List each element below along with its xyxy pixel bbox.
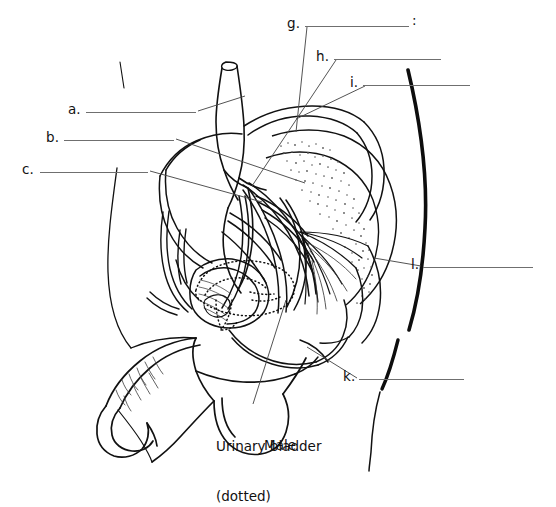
answer-blank-g[interactable]	[305, 26, 409, 27]
label-letter-b: b.	[46, 131, 59, 145]
answer-blank-c[interactable]	[40, 172, 148, 173]
answer-blank-a[interactable]	[86, 112, 196, 113]
label-suffix-g: :	[412, 14, 417, 28]
label-letter-h: h.	[316, 50, 329, 64]
urinary-bladder-caption: Urinary bladder (dotted)	[216, 405, 321, 507]
label-letter-g: g.	[287, 17, 300, 31]
label-letter-a: a.	[68, 103, 81, 117]
figure-title-male: Male	[264, 437, 296, 453]
answer-blank-b[interactable]	[64, 140, 174, 141]
label-letter-l: l.	[411, 258, 419, 272]
label-letter-i: i.	[350, 76, 358, 90]
answer-blank-k[interactable]	[359, 379, 464, 380]
label-letter-c: c.	[22, 163, 34, 177]
answer-blank-l[interactable]	[423, 267, 533, 268]
answer-blank-i[interactable]	[363, 85, 470, 86]
urinary-bladder-caption-line2: (dotted)	[216, 488, 321, 505]
label-letter-k: k.	[343, 370, 355, 384]
answer-blank-h[interactable]	[334, 59, 441, 60]
